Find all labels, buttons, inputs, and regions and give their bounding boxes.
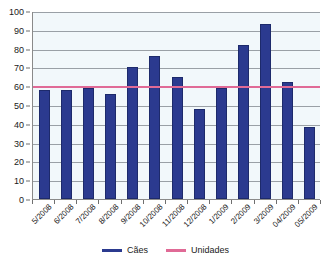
y-axis-tick-label: 0 bbox=[19, 196, 24, 205]
y-axis: 0102030405060708090100 bbox=[0, 12, 30, 200]
y-axis-tick bbox=[26, 200, 30, 201]
y-axis-tick-label: 40 bbox=[14, 120, 24, 129]
x-axis-tick-label: 10/2008 bbox=[138, 203, 164, 229]
y-axis-tick-label: 30 bbox=[14, 139, 24, 148]
bar bbox=[194, 109, 205, 199]
legend-label: Cães bbox=[127, 246, 148, 255]
legend-label: Unidades bbox=[191, 246, 229, 255]
chart-legend: CãesUnidades bbox=[0, 243, 331, 257]
x-axis-tick-label: 6/2008 bbox=[53, 203, 76, 226]
y-axis-tick-label: 10 bbox=[14, 177, 24, 186]
legend-bar-swatch-icon bbox=[102, 249, 122, 252]
y-axis-tick-label: 100 bbox=[9, 8, 24, 17]
legend-line-swatch-icon bbox=[166, 249, 186, 252]
legend-item[interactable]: Cães bbox=[102, 246, 148, 255]
x-axis-labels: 5/20086/20087/20088/20089/200810/200811/… bbox=[32, 203, 320, 239]
x-axis-tick-label: 5/2008 bbox=[31, 203, 54, 226]
y-axis-tick-label: 80 bbox=[14, 45, 24, 54]
plot-wrapper bbox=[32, 12, 320, 200]
bar bbox=[172, 77, 183, 199]
bar bbox=[61, 90, 72, 199]
y-axis-tick bbox=[26, 181, 30, 182]
y-axis-tick-label: 70 bbox=[14, 64, 24, 73]
x-axis-tick-label: 05/2009 bbox=[293, 203, 319, 229]
y-axis-tick bbox=[26, 143, 30, 144]
y-axis-tick bbox=[26, 49, 30, 50]
bar-series-caes bbox=[33, 12, 320, 199]
legend-item[interactable]: Unidades bbox=[166, 246, 229, 255]
x-axis-tick-label: 1/2009 bbox=[208, 203, 231, 226]
y-axis-tick-label: 90 bbox=[14, 26, 24, 35]
bar bbox=[105, 94, 116, 199]
y-axis-tick bbox=[26, 162, 30, 163]
x-axis-tick-label: 12/2008 bbox=[183, 203, 209, 229]
x-axis-tick-label: 04/2009 bbox=[271, 203, 297, 229]
bar bbox=[304, 127, 315, 199]
plot-area bbox=[32, 12, 320, 200]
y-axis-tick-label: 60 bbox=[14, 83, 24, 92]
y-axis-tick bbox=[26, 68, 30, 69]
y-axis-tick bbox=[26, 124, 30, 125]
bar-chart: 0102030405060708090100 5/20086/20087/200… bbox=[0, 0, 331, 264]
y-axis-tick bbox=[26, 12, 30, 13]
bar bbox=[39, 90, 50, 199]
threshold-line bbox=[33, 86, 320, 88]
y-axis-tick bbox=[26, 106, 30, 107]
x-axis-tick-label: 11/2008 bbox=[161, 203, 187, 229]
x-axis-tick bbox=[320, 200, 321, 204]
x-axis-tick-label: 8/2008 bbox=[97, 203, 120, 226]
bar bbox=[83, 88, 94, 199]
y-axis-tick-label: 50 bbox=[14, 102, 24, 111]
y-axis-tick bbox=[26, 30, 30, 31]
x-axis-tick-label: 2/2009 bbox=[230, 203, 253, 226]
y-axis-tick bbox=[26, 87, 30, 88]
y-axis-tick-label: 20 bbox=[14, 158, 24, 167]
bar bbox=[282, 82, 293, 199]
x-axis-tick-label: 7/2008 bbox=[75, 203, 98, 226]
bar bbox=[216, 88, 227, 199]
bar bbox=[238, 45, 249, 199]
bar bbox=[149, 56, 160, 199]
bar bbox=[260, 24, 271, 199]
